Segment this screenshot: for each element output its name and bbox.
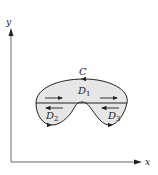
x-axis-label: x xyxy=(145,157,150,167)
region-decomposition-diagram: y x C D1 D2 D3 xyxy=(0,0,158,175)
y-axis-arrow-icon xyxy=(9,28,14,36)
x-axis-arrow-icon xyxy=(134,160,142,165)
curve-label: C xyxy=(79,66,87,77)
y-axis-label: y xyxy=(5,17,12,27)
